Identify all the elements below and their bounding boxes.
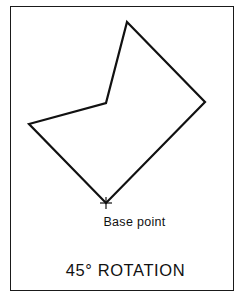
rotated-polygon (29, 22, 205, 203)
base-point-label: Base point (0, 215, 241, 229)
figure-title: 45° ROTATION (0, 261, 241, 280)
rotated-polygon-drawing (0, 0, 241, 298)
